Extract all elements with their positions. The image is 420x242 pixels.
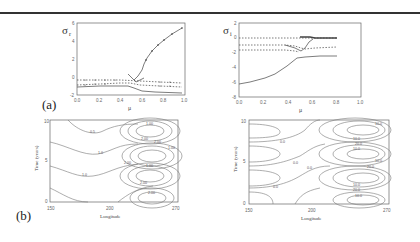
contour-lines	[50, 118, 182, 208]
y-axis-subscript: i	[230, 31, 232, 37]
svg-text:10.0: 10.0	[375, 122, 382, 126]
x-axis-label: Longitude	[301, 216, 322, 221]
svg-text:0.0: 0.0	[74, 98, 81, 103]
svg-text:0.2: 0.2	[260, 100, 267, 105]
svg-text:10.0: 10.0	[353, 183, 360, 187]
svg-text:0.4: 0.4	[117, 98, 124, 103]
y-axis-symbol: σ	[62, 24, 68, 36]
svg-text:20.0: 20.0	[355, 142, 362, 146]
svg-text:-2: -2	[232, 50, 236, 55]
svg-text:10.0: 10.0	[353, 147, 360, 151]
y-ticks: 10 5 0	[241, 119, 247, 206]
svg-text:0: 0	[72, 75, 75, 80]
x-axis-label: μ	[128, 105, 131, 111]
svg-text:200: 200	[106, 206, 114, 211]
svg-text:1.0: 1.0	[181, 98, 188, 103]
series-curves	[239, 37, 337, 84]
svg-text:6: 6	[72, 21, 75, 26]
svg-text:0.8: 0.8	[160, 98, 167, 103]
svg-text:0.5: 0.5	[90, 130, 95, 134]
svg-text:10: 10	[44, 119, 50, 124]
svg-text:0: 0	[243, 201, 246, 206]
svg-text:2.00: 2.00	[140, 181, 147, 185]
svg-text:20.0: 20.0	[367, 165, 374, 169]
svg-text:-6: -6	[232, 80, 236, 85]
svg-text:5: 5	[45, 158, 48, 163]
svg-text:0.0: 0.0	[280, 140, 285, 144]
svg-text:0: 0	[234, 35, 237, 40]
svg-text:0.0: 0.0	[293, 161, 298, 165]
panel-label-a: (a)	[42, 97, 56, 113]
x-axis-label: Longitude	[100, 214, 121, 219]
chart-sigma-r: σ r 6 4 2 0 -2 0.0 0.2 0.4 0.6 0.8 1.0 μ	[60, 18, 190, 113]
svg-text:0.6: 0.6	[139, 98, 146, 103]
svg-text:1.00: 1.00	[146, 122, 153, 126]
svg-text:200: 200	[308, 208, 316, 213]
svg-text:10: 10	[241, 119, 247, 124]
svg-text:0.2: 0.2	[96, 98, 103, 103]
svg-text:270: 270	[172, 206, 180, 211]
y-axis-subscript: r	[69, 31, 71, 37]
series-curves	[77, 27, 183, 93]
svg-text:0.0: 0.0	[307, 166, 312, 170]
svg-text:-4: -4	[232, 65, 236, 70]
x-axis-label: μ	[299, 107, 302, 113]
svg-text:10.0: 10.0	[355, 194, 362, 198]
x-ticks: 0.0 0.2 0.4 0.6 0.8 1.0	[236, 100, 364, 105]
y-ticks: 2 0 -2 -4 -6 -8	[232, 21, 237, 100]
contour-lines	[249, 118, 391, 208]
svg-text:270: 270	[383, 208, 391, 213]
svg-text:150: 150	[245, 208, 253, 213]
svg-text:2.00: 2.00	[124, 161, 131, 165]
plot-frame	[239, 23, 361, 97]
svg-text:1.0: 1.0	[357, 100, 364, 105]
x-ticks: 150 200 270	[245, 208, 391, 213]
svg-text:1.00: 1.00	[146, 164, 153, 168]
y-ticks: 10 5 0	[44, 119, 50, 204]
top-rule	[0, 12, 420, 14]
svg-text:2: 2	[234, 21, 237, 26]
svg-text:1.0: 1.0	[98, 151, 103, 155]
svg-text:1.00: 1.00	[168, 146, 175, 150]
chart-sigma-i: σ i 2 0 -2 -4 -6 -8 0.0 0.2 0.4 0.6 0.8 …	[225, 18, 370, 113]
svg-text:150: 150	[47, 206, 55, 211]
svg-text:10.0: 10.0	[375, 159, 382, 163]
x-ticks: 0.0 0.2 0.4 0.6 0.8 1.0	[74, 98, 188, 103]
panel-label-b: (b)	[16, 208, 31, 224]
svg-text:2.00: 2.00	[141, 137, 148, 141]
contour-left: Time (years) 10 5 0 150 200 270 Longitud…	[28, 116, 188, 226]
svg-text:0.8: 0.8	[333, 100, 340, 105]
svg-text:0: 0	[45, 199, 48, 204]
x-ticks: 150 200 270	[47, 206, 180, 211]
svg-text:0.4: 0.4	[285, 100, 292, 105]
svg-text:5: 5	[243, 159, 246, 164]
svg-text:1.0: 1.0	[82, 173, 87, 177]
y-axis-label: Time (years)	[233, 146, 238, 172]
y-axis-label: Time (years)	[34, 145, 39, 171]
contour-right: Time (years) 10 5 0 150 200 270 Longitud…	[235, 116, 405, 228]
svg-text:0.0: 0.0	[273, 185, 278, 189]
plot-frame	[249, 120, 389, 204]
svg-text:20.0: 20.0	[353, 188, 360, 192]
svg-text:2.00: 2.00	[154, 140, 161, 144]
svg-text:10.0: 10.0	[353, 137, 360, 141]
svg-text:0.6: 0.6	[309, 100, 316, 105]
svg-text:2: 2	[72, 57, 75, 62]
svg-text:0.0: 0.0	[236, 100, 243, 105]
svg-text:4: 4	[72, 39, 75, 44]
svg-text:2.00: 2.00	[148, 191, 155, 195]
y-axis-symbol: σ	[223, 24, 229, 36]
